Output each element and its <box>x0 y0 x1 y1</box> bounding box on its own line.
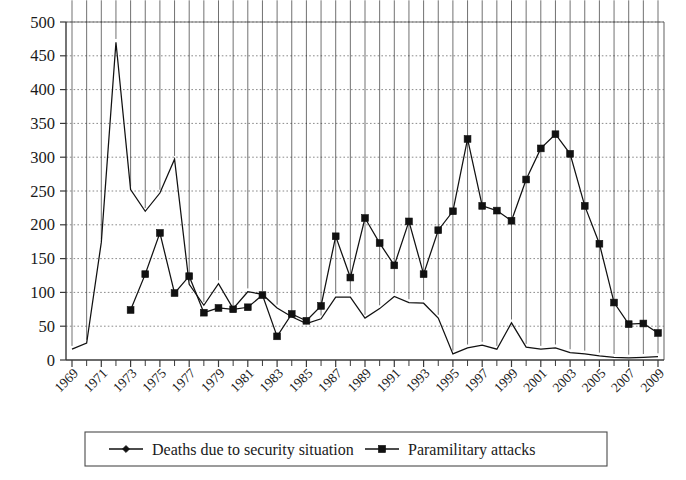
legend-item-attacks[interactable]: Paramilitary attacks <box>365 441 536 459</box>
data-point-2008 <box>640 320 647 327</box>
y-tick-label-200: 200 <box>30 215 55 234</box>
data-point-1993 <box>420 271 427 278</box>
y-tick-label-450: 450 <box>30 46 55 65</box>
y-tick-label-400: 400 <box>30 80 55 99</box>
x-tick-label-2005: 2005 <box>579 365 609 395</box>
x-tick-label-1997: 1997 <box>462 365 492 395</box>
data-point-1988 <box>347 274 354 281</box>
x-tick-label-1989: 1989 <box>344 365 374 395</box>
line-chart: 050100150200250300350400450500 196919711… <box>0 0 686 480</box>
data-point-2001 <box>537 145 544 152</box>
data-point-1980 <box>230 306 237 313</box>
data-point-1999 <box>508 217 515 224</box>
x-tick-label-1987: 1987 <box>315 365 345 395</box>
data-point-1975 <box>157 230 164 237</box>
y-tick-label-500: 500 <box>30 13 55 32</box>
data-point-1995 <box>450 208 457 215</box>
x-tick-label-2003: 2003 <box>550 365 580 395</box>
legend-label: Deaths due to security situation <box>152 441 354 459</box>
x-tick-label-2007: 2007 <box>608 365 638 395</box>
y-tick-label-0: 0 <box>47 351 55 370</box>
data-point-2004 <box>581 202 588 209</box>
data-point-1983 <box>274 333 281 340</box>
data-series <box>72 0 661 358</box>
data-point-2000 <box>523 176 530 183</box>
data-point-1991 <box>391 262 398 269</box>
data-point-1981 <box>244 304 251 311</box>
data-point-1996 <box>464 136 471 143</box>
y-tick-label-150: 150 <box>30 249 55 268</box>
y-tick-label-350: 350 <box>30 114 55 133</box>
series-deaths <box>72 0 658 358</box>
data-point-2007 <box>625 321 632 328</box>
x-tick-label-1991: 1991 <box>374 366 404 396</box>
x-tick-label-1973: 1973 <box>110 365 140 395</box>
data-point-1994 <box>435 227 442 234</box>
data-point-2009 <box>655 330 662 337</box>
data-point-1977 <box>186 273 193 280</box>
legend-marker-square-icon <box>378 445 385 452</box>
data-point-1982 <box>259 292 266 299</box>
data-point-1989 <box>362 215 369 222</box>
y-axis-tick-labels: 050100150200250300350400450500 <box>30 13 55 370</box>
x-tick-label-1971: 1971 <box>81 366 111 396</box>
x-tick-label-1981: 1981 <box>227 366 257 396</box>
x-tick-label-1975: 1975 <box>139 365 169 395</box>
legend-label: Paramilitary attacks <box>408 441 536 459</box>
x-tick-label-1977: 1977 <box>169 365 199 395</box>
data-point-1998 <box>493 207 500 214</box>
data-point-2003 <box>567 150 574 157</box>
data-point-1979 <box>215 305 222 312</box>
data-point-1997 <box>479 202 486 209</box>
y-tick-label-50: 50 <box>39 317 56 336</box>
data-point-2002 <box>552 131 559 138</box>
x-tick-label-2009: 2009 <box>637 365 667 395</box>
chart-legend: Deaths due to security situationParamili… <box>85 432 607 466</box>
x-axis-ticks <box>72 360 658 367</box>
chart-figure: 050100150200250300350400450500 196919711… <box>0 0 686 480</box>
data-point-1974 <box>142 271 149 278</box>
data-point-1990 <box>376 240 383 247</box>
x-axis-tick-labels: 1969197119731975197719791981198319851987… <box>51 365 667 395</box>
x-tick-label-1993: 1993 <box>403 365 433 395</box>
data-point-2005 <box>596 240 603 247</box>
y-tick-label-250: 250 <box>30 182 55 201</box>
y-tick-label-300: 300 <box>30 148 55 167</box>
data-point-1987 <box>332 233 339 240</box>
data-point-1973 <box>127 307 134 314</box>
data-point-1978 <box>200 309 207 316</box>
x-tick-label-1999: 1999 <box>491 365 521 395</box>
x-tick-label-1983: 1983 <box>257 365 287 395</box>
data-point-1984 <box>288 311 295 318</box>
data-point-1976 <box>171 290 178 297</box>
y-tick-label-100: 100 <box>30 283 55 302</box>
y-axis-ticks <box>60 22 66 360</box>
x-tick-label-1979: 1979 <box>198 365 228 395</box>
data-point-1992 <box>406 218 413 225</box>
x-tick-label-1969: 1969 <box>51 365 81 395</box>
data-point-1985 <box>303 317 310 324</box>
x-tick-label-1995: 1995 <box>432 365 462 395</box>
legend-item-deaths[interactable]: Deaths due to security situation <box>109 441 354 459</box>
x-tick-label-1985: 1985 <box>286 365 316 395</box>
data-point-2006 <box>611 299 618 306</box>
data-point-1986 <box>318 303 325 310</box>
legend-marker-diamond-icon <box>122 445 129 452</box>
x-tick-label-2001: 2001 <box>520 366 550 396</box>
